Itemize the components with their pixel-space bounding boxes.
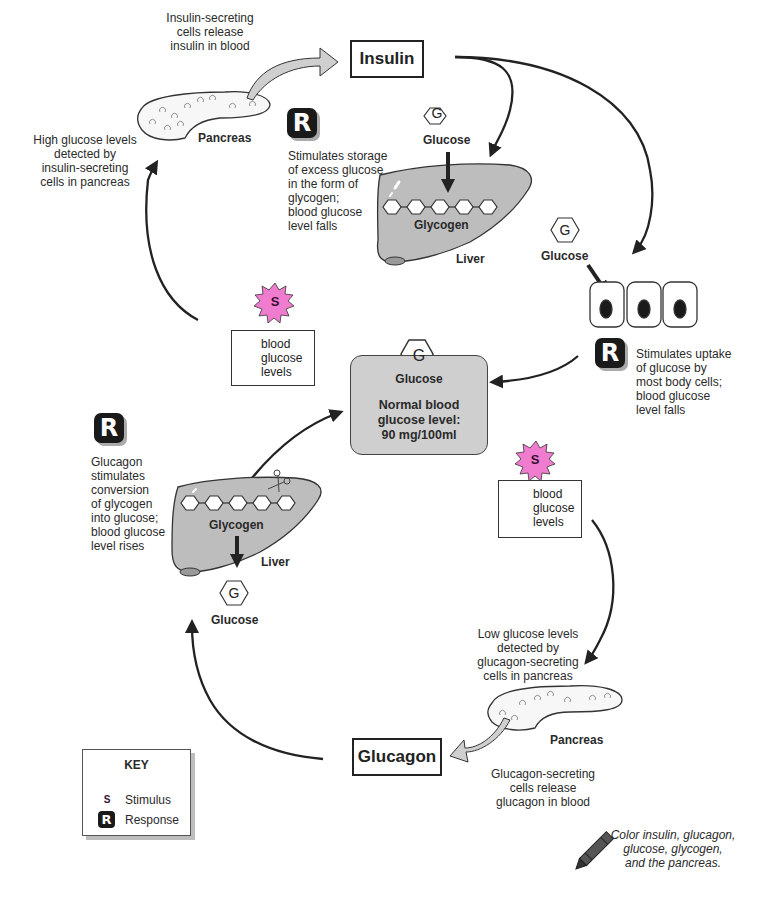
glucagon-release-text: Glucagon-secreting cells release glucago… — [483, 767, 603, 809]
arrow-stimulus-to-pancreas — [146, 165, 198, 320]
glucose-label-center: Glucose — [351, 372, 487, 386]
arrow-cells-to-center — [495, 356, 578, 382]
glycogen-label-bottom: Glycogen — [209, 518, 264, 532]
glucose-label-top-liver: Glucose — [423, 133, 470, 147]
key-title: KEY — [83, 758, 190, 772]
glucose-symbol-top-liver: G — [430, 105, 444, 121]
arrow-glucagon-to-liver — [192, 625, 323, 759]
legend-key: KEY S Stimulus R Response — [82, 749, 191, 836]
arrow-stimulus-to-pancreas-bottom — [588, 520, 613, 660]
key-response-badge: R — [98, 811, 115, 828]
glucose-label-cells: Glucose — [541, 249, 588, 263]
normal-glucose-box: G Glucose Normal blood glucose level: 90… — [350, 355, 488, 455]
glucagon-box: Glucagon — [352, 738, 442, 776]
pancreas-bottom-label: Pancreas — [550, 733, 603, 747]
pancreas-top-label: Pancreas — [198, 131, 251, 145]
insulin-label: Insulin — [360, 49, 415, 69]
stimulus-badge-bottom-letter: S — [528, 452, 542, 467]
insulin-release-arrow — [247, 48, 338, 100]
key-stimulus-label: Stimulus — [125, 793, 171, 807]
high-glucose-detected-text: High glucose levels detected by insulin-… — [30, 133, 140, 189]
arrow-liver-to-center — [252, 413, 338, 478]
stimulus-box-up: blood glucose levels — [231, 330, 315, 386]
low-glucose-detected-text: Low glucose levels detected by glucagon-… — [468, 627, 588, 683]
liver-label-top: Liver — [456, 252, 485, 266]
glucagon-label: Glucagon — [358, 747, 436, 767]
glucose-symbol-bottom-liver: G — [227, 585, 241, 601]
response-badge-liver-conversion: R — [94, 413, 124, 443]
cells-uptake-response-text: Stimulates uptake of glucose by most bod… — [636, 347, 746, 417]
glycogen-label-top: Glycogen — [414, 218, 469, 232]
coloring-instruction: Color insulin, glucagon, glucose, glycog… — [598, 828, 748, 870]
glucose-symbol-center: G — [411, 347, 427, 365]
stimulus-box-down: blood glucose levels — [498, 480, 582, 538]
key-stimulus-letter: S — [101, 794, 113, 805]
normal-level-text: Normal blood glucose level: 90 mg/100ml — [351, 398, 487, 443]
insulin-box: Insulin — [350, 40, 424, 78]
stimulus-up-text: blood glucose levels — [261, 337, 302, 379]
insulin-release-text: Insulin-secreting cells release insulin … — [160, 11, 260, 53]
glucose-label-bottom-liver: Glucose — [211, 613, 258, 627]
response-badge-cells-uptake: R — [595, 338, 625, 368]
glucose-symbol-cells: G — [558, 222, 572, 238]
stimulus-down-text: blood glucose levels — [533, 487, 574, 529]
liver-conversion-response-text: Glucagon stimulates conversion of glycog… — [91, 455, 181, 553]
response-badge-liver-storage: R — [287, 108, 317, 138]
body-cells-icon — [590, 282, 697, 327]
stimulus-badge-top-letter: S — [268, 294, 282, 309]
liver-label-bottom: Liver — [261, 555, 290, 569]
liver-top-icon — [378, 164, 532, 265]
liver-storage-response-text: Stimulates storage of excess glucose in … — [288, 149, 398, 233]
key-response-label: Response — [125, 813, 179, 827]
glucagon-release-arrow — [450, 718, 510, 762]
